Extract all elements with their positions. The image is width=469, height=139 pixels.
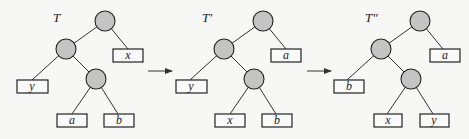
leaf-label: a <box>69 113 75 127</box>
internal-node <box>401 69 421 89</box>
leaf-label: b <box>116 113 122 127</box>
tree-t-prime: T′ a y x b <box>176 10 301 127</box>
leaf-label: y <box>430 113 437 127</box>
tree-transformation-diagram: T x y a b T′ a y x b <box>0 0 469 139</box>
leaf-label: b <box>274 113 280 127</box>
leaf-label: b <box>346 79 352 93</box>
tree-t: T x y a b <box>17 10 143 127</box>
internal-node <box>371 39 391 59</box>
leaf-label: x <box>384 113 391 127</box>
root-node <box>410 11 430 31</box>
leaf-label: y <box>187 79 194 93</box>
leaf-label: y <box>28 79 35 93</box>
internal-node <box>214 39 234 59</box>
internal-node <box>244 69 264 89</box>
tree-title: T″ <box>365 10 378 25</box>
root-node <box>253 11 273 31</box>
leaf-label: x <box>226 113 233 127</box>
tree-t-double-prime: T″ a b x y <box>334 10 460 127</box>
tree-title: T <box>53 10 61 25</box>
leaf-label: a <box>442 48 448 62</box>
internal-node <box>56 39 76 59</box>
internal-node <box>86 69 106 89</box>
root-node <box>95 11 115 31</box>
tree-title: T′ <box>202 10 212 25</box>
leaf-label: x <box>124 48 131 62</box>
leaf-label: a <box>283 48 289 62</box>
